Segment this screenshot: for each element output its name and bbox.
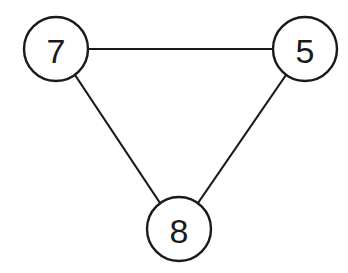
node-5: 5 <box>273 17 337 81</box>
edge-5-8 <box>198 75 286 203</box>
graph-diagram: 7 5 8 <box>0 0 348 273</box>
node-8: 8 <box>147 197 211 261</box>
graph-svg: 7 5 8 <box>0 0 348 273</box>
node-5-label: 5 <box>296 32 315 70</box>
node-7-label: 7 <box>47 32 66 70</box>
node-7: 7 <box>24 17 88 81</box>
edge-7-8 <box>75 75 160 203</box>
node-8-label: 8 <box>170 212 189 250</box>
